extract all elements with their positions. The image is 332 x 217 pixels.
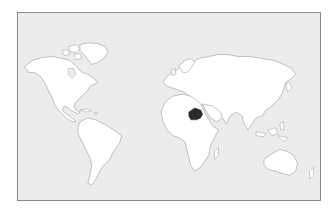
japan [286, 82, 292, 92]
australia [264, 150, 298, 176]
greenland [80, 43, 108, 65]
new-zealand [309, 167, 313, 179]
south-america [78, 118, 122, 185]
caribbean-islands [80, 109, 98, 115]
madagascar [215, 148, 219, 160]
map-canvas [18, 13, 320, 200]
world-map: Ethiopia [17, 12, 321, 201]
arctic-islands [62, 45, 82, 60]
indonesia [256, 122, 288, 142]
british-isles [171, 68, 176, 75]
